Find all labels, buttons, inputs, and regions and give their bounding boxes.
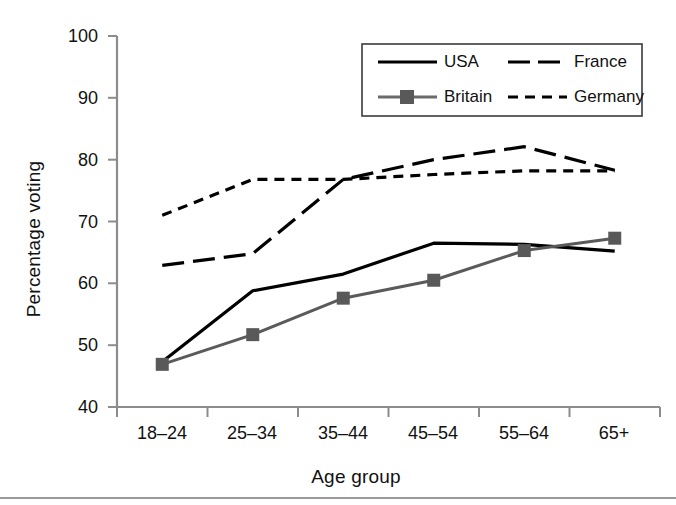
legend-label-britain: Britain <box>444 87 492 107</box>
page-bottom-rule <box>0 497 676 499</box>
legend-label-france: France <box>574 52 627 72</box>
y-tick-label-70: 70 <box>56 212 98 233</box>
data-point-marker-britain-5 <box>608 232 621 245</box>
y-axis-title: Percentage voting <box>23 139 45 339</box>
data-point-marker-britain-3 <box>427 274 440 287</box>
y-tick-label-80: 80 <box>56 150 98 171</box>
legend-label-germany: Germany <box>574 87 644 107</box>
y-tick-label-40: 40 <box>56 397 98 418</box>
y-tick-label-100: 100 <box>56 26 98 47</box>
x-tick-label-65-plus: 65+ <box>569 423 659 444</box>
x-tick-label-25-34: 25–34 <box>207 423 297 444</box>
chart-figure: 100 90 80 70 60 50 40 18–24 25–34 35–44 … <box>0 0 676 505</box>
legend-label-usa: USA <box>444 52 479 72</box>
data-point-marker-britain-1 <box>246 328 259 341</box>
series-layer <box>156 147 622 371</box>
x-tick-label-55-64: 55–64 <box>479 423 569 444</box>
x-tick-label-45-54: 45–54 <box>388 423 478 444</box>
x-axis-title: Age group <box>176 466 536 488</box>
series-line-germany <box>162 171 615 216</box>
y-tick-label-60: 60 <box>56 273 98 294</box>
data-point-marker-britain-0 <box>156 358 169 371</box>
data-point-marker-britain-4 <box>518 244 531 257</box>
x-tick-label-18-24: 18–24 <box>117 423 207 444</box>
x-tick-label-35-44: 35–44 <box>298 423 388 444</box>
series-line-usa <box>162 243 615 362</box>
data-point-marker-britain-2 <box>337 292 350 305</box>
legend-marker-britain <box>400 90 414 104</box>
y-tick-label-50: 50 <box>56 335 98 356</box>
y-tick-label-90: 90 <box>56 88 98 109</box>
